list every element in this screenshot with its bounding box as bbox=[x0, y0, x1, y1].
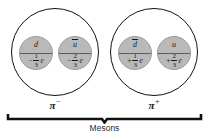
quark-symbol: d bbox=[119, 37, 151, 53]
quark-charge: − 1 3 e bbox=[20, 53, 52, 69]
quark-symbol-text: d bbox=[34, 41, 39, 49]
charge-unit: e bbox=[40, 57, 43, 65]
charge-unit: e bbox=[139, 57, 142, 65]
meson-label-pi-minus: π− bbox=[11, 98, 99, 111]
mesons-diagram: d − 1 3 e u − 2 bbox=[0, 0, 209, 138]
meson-label-pi-plus: π+ bbox=[110, 98, 198, 111]
charge-fraction: 2 3 bbox=[171, 53, 177, 69]
charge-numerator: 1 bbox=[33, 53, 39, 60]
charge-numerator: 2 bbox=[72, 53, 78, 60]
charge-sign: − bbox=[67, 57, 71, 65]
pi-symbol: π bbox=[149, 99, 155, 111]
quark-charge: + 1 3 e bbox=[119, 53, 151, 69]
charge-denominator: 3 bbox=[171, 62, 177, 69]
quark-symbol-text: u bbox=[73, 41, 78, 49]
quark-symbol: u bbox=[158, 37, 190, 53]
meson-pi-plus: d + 1 3 e u + 2 bbox=[110, 8, 198, 96]
charge-unit: e bbox=[79, 57, 82, 65]
charge-unit: e bbox=[178, 57, 181, 65]
quark-up-antiquark: u − 2 3 e bbox=[58, 36, 92, 70]
quark-symbol: d bbox=[20, 37, 52, 53]
quark-charge: − 2 3 e bbox=[59, 53, 91, 69]
figure-caption: Mesons bbox=[0, 124, 209, 133]
charge-fraction: 1 3 bbox=[132, 53, 138, 69]
quark-symbol-text: d bbox=[133, 41, 138, 49]
meson-pi-minus: d − 1 3 e u − 2 bbox=[11, 8, 99, 96]
charge-denominator: 3 bbox=[33, 62, 39, 69]
brace-path bbox=[8, 114, 201, 123]
charge-sign: + bbox=[166, 57, 170, 65]
quark-down: d − 1 3 e bbox=[19, 36, 53, 70]
quark-up: u + 2 3 e bbox=[157, 36, 191, 70]
quark-symbol: u bbox=[59, 37, 91, 53]
charge-denominator: 3 bbox=[72, 62, 78, 69]
pi-charge-superscript: + bbox=[155, 97, 160, 106]
quark-down-antiquark: d + 1 3 e bbox=[118, 36, 152, 70]
charge-fraction: 1 3 bbox=[33, 53, 39, 69]
quark-symbol-text: u bbox=[172, 41, 177, 49]
charge-sign: − bbox=[28, 57, 32, 65]
charge-denominator: 3 bbox=[132, 62, 138, 69]
pi-symbol: π bbox=[50, 99, 56, 111]
charge-numerator: 1 bbox=[132, 53, 138, 60]
pi-charge-superscript: − bbox=[56, 97, 61, 106]
charge-sign: + bbox=[127, 57, 131, 65]
charge-numerator: 2 bbox=[171, 53, 177, 60]
quark-charge: + 2 3 e bbox=[158, 53, 190, 69]
charge-fraction: 2 3 bbox=[72, 53, 78, 69]
